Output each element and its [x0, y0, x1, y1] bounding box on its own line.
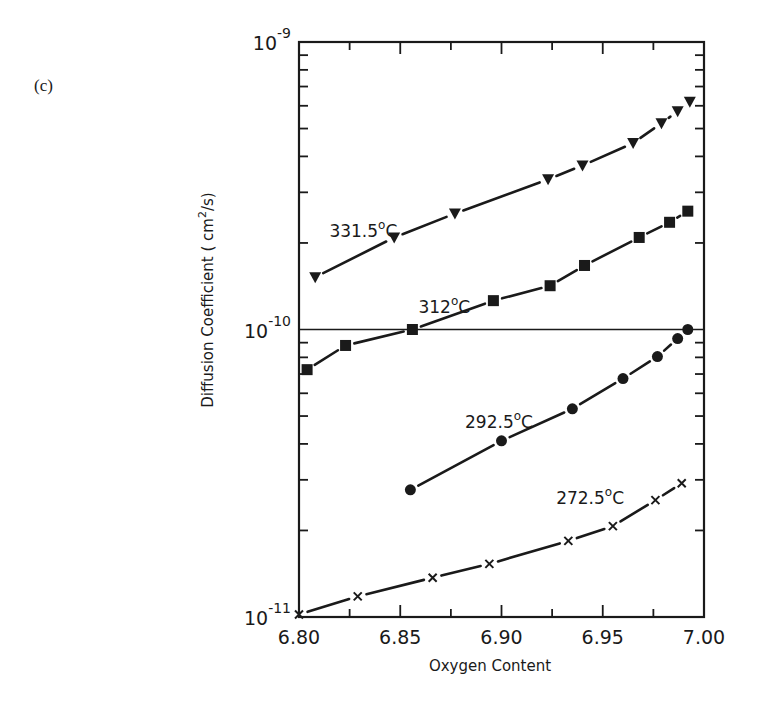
series-line [502, 288, 541, 298]
x-tick-label: 6.85 [379, 626, 421, 648]
square-marker [634, 232, 645, 243]
triangle-marker [577, 160, 589, 171]
series-line [631, 361, 650, 373]
y-tick-label: 10-11 [244, 600, 291, 629]
x-tick-label: 7.00 [683, 626, 725, 648]
series-line [315, 350, 338, 365]
x-marker [678, 479, 686, 487]
circle-marker [672, 333, 683, 344]
y-axis-title: Diffusion Coefficient ( cm2/s) [196, 192, 217, 407]
x-tick-label: 6.90 [480, 626, 522, 648]
triangle-marker [672, 106, 684, 117]
series-line [366, 580, 423, 594]
series-line [640, 128, 654, 138]
series-line [663, 488, 674, 495]
x-marker [429, 574, 437, 582]
x-axis-title: Oxygen Content [429, 657, 551, 675]
data-series: 331.5oC312oC292.5oC272.5oC [295, 97, 696, 619]
triangle-marker [542, 174, 554, 185]
square-marker [340, 340, 351, 351]
series-line [418, 445, 493, 485]
series-line [403, 217, 447, 234]
series-line [647, 226, 661, 233]
series-line [669, 117, 671, 118]
y-tick-label: 10-9 [253, 25, 291, 54]
y-tick-labels: 10-910-1010-11 [244, 25, 291, 629]
series-line [556, 169, 574, 176]
series-272.5C: 272.5oC [295, 479, 686, 618]
diffusion-coefficient-chart: 6.806.856.906.957.00 10-910-1010-11 331.… [0, 0, 771, 712]
series-331.5C: 331.5oC [309, 97, 696, 284]
triangle-marker [449, 209, 461, 220]
x-tick-labels: 6.806.856.906.957.00 [278, 626, 725, 648]
series-line [463, 182, 539, 210]
square-marker [579, 260, 590, 271]
circle-marker [682, 324, 693, 335]
y-tick-label: 10-10 [244, 313, 291, 342]
triangle-marker [655, 118, 667, 129]
series-line [354, 332, 403, 344]
x-marker [354, 592, 362, 600]
series-line [323, 242, 386, 274]
series-line [558, 270, 577, 281]
triangle-marker [309, 272, 321, 283]
square-marker [682, 206, 693, 217]
triangle-marker [684, 97, 696, 108]
series-label: 331.5oC [329, 218, 397, 241]
x-marker [651, 496, 659, 504]
series-line [593, 242, 632, 262]
series-line [677, 216, 680, 218]
x-tick-label: 6.80 [278, 626, 320, 648]
series-line [498, 543, 560, 561]
square-marker [664, 217, 675, 228]
y-axis-title-text: Diffusion Coefficient ( cm2/s) [196, 192, 217, 407]
circle-marker [652, 351, 663, 362]
x-marker [564, 537, 572, 545]
x-tick-label: 6.95 [582, 626, 624, 648]
series-line [308, 599, 350, 612]
triangle-marker [627, 138, 639, 149]
circle-marker [496, 435, 507, 446]
circle-marker [405, 484, 416, 495]
series-line [591, 147, 625, 162]
series-label: 272.5oC [556, 485, 624, 508]
series-292.5C: 292.5oC [405, 324, 693, 495]
square-marker [302, 364, 313, 375]
series-line [441, 566, 480, 576]
plot-frame [299, 42, 704, 617]
square-marker [407, 324, 418, 335]
x-marker [485, 560, 493, 568]
circle-marker [618, 373, 629, 384]
square-marker [545, 280, 556, 291]
series-line [664, 345, 671, 351]
square-marker [488, 295, 499, 306]
series-line [621, 505, 648, 522]
x-marker [609, 522, 617, 530]
series-label: 292.5oC [465, 409, 533, 432]
circle-marker [567, 403, 578, 414]
series-line [580, 383, 615, 404]
series-line [577, 529, 604, 538]
series-label: 312oC [418, 294, 470, 317]
